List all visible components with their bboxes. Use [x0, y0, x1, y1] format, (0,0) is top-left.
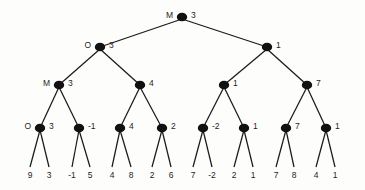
- tree-edge: [326, 130, 335, 167]
- tree-edge: [286, 130, 294, 167]
- leaf-value: 8: [292, 170, 297, 180]
- tree-edge: [40, 130, 49, 167]
- tree-edge: [203, 130, 212, 167]
- node-value: 3: [68, 78, 73, 88]
- tree-node-dot: [95, 43, 105, 52]
- leaf-value: -2: [208, 170, 216, 180]
- tree-edge: [267, 49, 307, 85]
- tree-edge: [112, 130, 120, 167]
- tree-edge: [59, 87, 79, 128]
- tree-edge: [79, 130, 90, 167]
- tree-node-values: 33134173-142-2171: [49, 10, 340, 131]
- tree-edges: [30, 19, 335, 167]
- leaf-value: 5: [88, 170, 93, 180]
- tree-node-dot: [321, 124, 331, 133]
- leaf-value: 4: [110, 170, 115, 180]
- leaf-value: -1: [68, 170, 76, 180]
- game-tree-svg: 33134173-142-2171 MOMO 93-1548267-221784…: [0, 0, 365, 190]
- node-value: 1: [335, 121, 340, 131]
- node-value: -2: [212, 121, 220, 131]
- node-value: 3: [191, 10, 196, 20]
- tree-node-dot: [198, 124, 208, 133]
- node-value: 7: [316, 78, 321, 88]
- leaf-value: 6: [169, 170, 174, 180]
- node-value: -1: [88, 121, 96, 131]
- tree-edge: [162, 130, 171, 167]
- leaf-value: 9: [28, 170, 33, 180]
- node-value: 3: [49, 121, 54, 131]
- tree-node-dot: [219, 81, 229, 90]
- tree-node-dot: [281, 124, 291, 133]
- tree-node-dot: [239, 124, 249, 133]
- leaf-value: 2: [232, 170, 237, 180]
- node-role-label: M: [166, 10, 173, 20]
- tree-nodes: [35, 13, 331, 133]
- tree-edge: [307, 87, 326, 128]
- tree-leaf-values: 93-1548267-2217841: [28, 170, 338, 180]
- node-value: 7: [295, 121, 300, 131]
- tree-edge: [59, 49, 100, 85]
- leaf-value: 1: [333, 170, 338, 180]
- tree-edge: [316, 130, 326, 167]
- leaf-value: 8: [129, 170, 134, 180]
- game-tree-figure: 33134173-142-2171 MOMO 93-1548267-221784…: [0, 0, 365, 190]
- node-value: 1: [233, 78, 238, 88]
- tree-node-dot: [54, 81, 64, 90]
- node-role-label: O: [24, 121, 31, 131]
- tree-edge: [224, 49, 267, 85]
- tree-edge: [193, 130, 203, 167]
- tree-node-dot: [115, 124, 125, 133]
- leaf-value: 7: [191, 170, 196, 180]
- node-value: 2: [171, 121, 176, 131]
- tree-edge: [100, 49, 140, 85]
- node-role-label: O: [84, 40, 91, 50]
- node-value: 4: [149, 78, 154, 88]
- tree-edge: [234, 130, 244, 167]
- tree-node-dot: [35, 124, 45, 133]
- tree-node-dot: [262, 43, 272, 52]
- tree-edge: [72, 130, 79, 167]
- tree-node-dot: [74, 124, 84, 133]
- leaf-value: 3: [47, 170, 52, 180]
- tree-edge: [276, 130, 286, 167]
- node-value: 4: [129, 121, 134, 131]
- tree-edge: [140, 87, 162, 128]
- leaf-value: 2: [150, 170, 155, 180]
- tree-edge: [182, 19, 267, 47]
- tree-node-dot: [177, 13, 187, 22]
- node-role-label: M: [43, 78, 50, 88]
- leaf-value: 1: [251, 170, 256, 180]
- node-value: 1: [253, 121, 258, 131]
- node-value: 1: [276, 40, 281, 50]
- tree-node-dot: [157, 124, 167, 133]
- leaf-value: 4: [314, 170, 319, 180]
- tree-node-dot: [135, 81, 145, 90]
- leaf-value: 7: [274, 170, 279, 180]
- node-value: 3: [109, 40, 114, 50]
- tree-edge: [244, 130, 253, 167]
- tree-node-dot: [302, 81, 312, 90]
- tree-edge: [152, 130, 162, 167]
- tree-edge: [30, 130, 40, 167]
- tree-edge: [224, 87, 244, 128]
- tree-edge: [120, 130, 131, 167]
